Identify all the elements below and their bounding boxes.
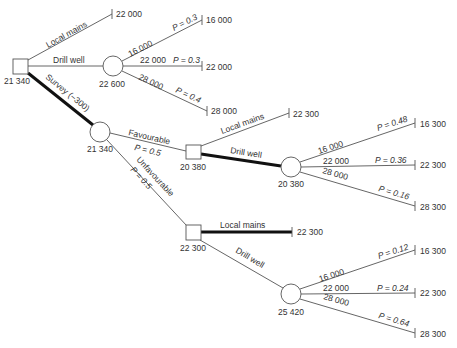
node-value-drill1: 22 600 bbox=[99, 79, 125, 89]
outcome-root-local-mains: 22 000 bbox=[116, 9, 142, 19]
branch-label-favourable: Favourable bbox=[128, 127, 172, 146]
cost-fav-drill-16000: 16 000 bbox=[317, 138, 345, 156]
prob-drill1-16000: P = 0.3 bbox=[170, 12, 199, 33]
node-value-unfav-drill: 25 420 bbox=[278, 307, 304, 317]
outcome-fav-drill-22000: 22 300 bbox=[420, 160, 446, 170]
node-value-fav-drill: 20 380 bbox=[278, 179, 304, 189]
node-value-favourable: 20 380 bbox=[180, 162, 206, 172]
node-value-root: 21 340 bbox=[4, 76, 30, 86]
outcome-unfav-drill-28000: 28 300 bbox=[420, 329, 446, 339]
prob-fav-drill-16000: P = 0.48 bbox=[376, 114, 409, 133]
node-value-survey: 21 340 bbox=[87, 144, 113, 154]
branch-label-root-drill-well: Drill well bbox=[53, 55, 85, 65]
decision-node-favourable bbox=[186, 145, 201, 159]
outcome-drill1-16000: 16 000 bbox=[206, 15, 232, 25]
chance-node-survey bbox=[90, 122, 110, 142]
branch-label-unfav-drill-well: Drill well bbox=[234, 245, 266, 270]
prob-unfav-drill-16000: P = 0.12 bbox=[377, 242, 410, 261]
cost-drill1-22000: 22 000 bbox=[140, 55, 166, 65]
outcome-fav-drill-28000: 28 300 bbox=[420, 202, 446, 212]
outcome-unfav-local-mains: 22 300 bbox=[297, 227, 323, 237]
outcome-drill1-22000: 22 000 bbox=[206, 62, 232, 72]
decision-node-root bbox=[13, 59, 28, 74]
decision-tree-diagram: Local mains 22 000 Drill well Survey (−3… bbox=[0, 0, 457, 348]
prob-drill1-22000: P = 0.3 bbox=[173, 55, 200, 65]
outcome-unfav-drill-16000: 16 300 bbox=[420, 246, 446, 256]
node-value-unfavourable: 22 300 bbox=[180, 243, 206, 253]
outcome-fav-local-mains: 22 300 bbox=[293, 109, 319, 119]
outcome-drill1-28000: 28 000 bbox=[211, 106, 237, 116]
chance-node-unfav-drill bbox=[281, 284, 301, 304]
outcome-unfav-drill-22000: 22 300 bbox=[420, 288, 446, 298]
prob-unfav-drill-22000: P = 0.24 bbox=[377, 283, 409, 293]
prob-fav-drill-28000: P = 0.16 bbox=[377, 183, 410, 201]
chance-node-fav-drill bbox=[281, 157, 301, 177]
branch-unfav-drill-22000 bbox=[301, 293, 415, 294]
outcome-fav-drill-16000: 16 300 bbox=[420, 119, 446, 129]
prob-fav-drill-22000: P = 0.36 bbox=[375, 155, 407, 165]
decision-node-unfavourable bbox=[186, 225, 201, 240]
branch-fav-drill-22000 bbox=[301, 165, 415, 167]
cost-drill1-28000: 28 000 bbox=[137, 72, 165, 92]
chance-node-drill1 bbox=[103, 56, 123, 76]
prob-unfav-drill-28000: P = 0.64 bbox=[377, 310, 410, 328]
cost-unfav-drill-16000: 16 000 bbox=[318, 266, 346, 284]
branch-label-root-local-mains: Local mains bbox=[44, 19, 89, 50]
cost-fav-drill-22000: 22 000 bbox=[323, 156, 349, 166]
branch-drill1-28000 bbox=[122, 71, 207, 111]
branch-label-unfav-local-mains: Local mains bbox=[220, 220, 265, 230]
